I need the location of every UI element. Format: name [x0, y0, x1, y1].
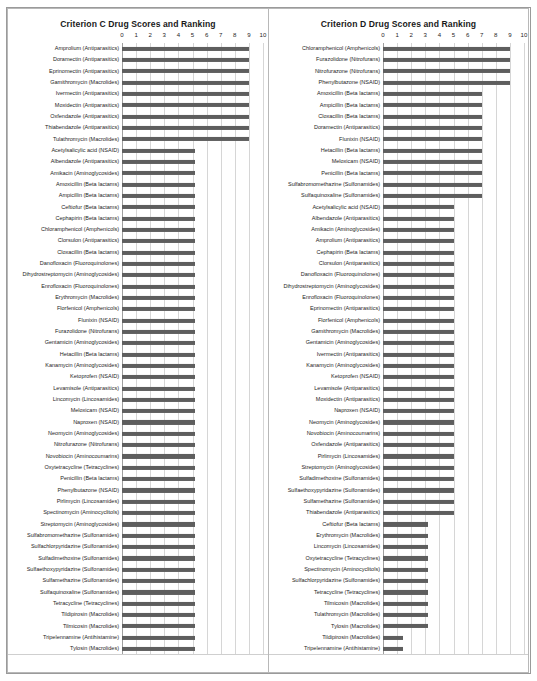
bar-category-label: Tetracycline (Tetracyclines)	[8, 601, 122, 607]
bar-track	[122, 485, 263, 496]
bar-row: Doramectin (Antiparasitics)	[8, 54, 268, 65]
bar-category-label: Ivermectin (Antiparasitics)	[269, 352, 383, 358]
bar-track	[122, 304, 263, 315]
plot-baseline-criterion-d	[269, 654, 528, 655]
x-axis-tick-label: 1	[134, 31, 137, 38]
x-axis-tick-label: 10	[260, 31, 267, 38]
bar-fill	[122, 375, 195, 379]
bar-fill	[122, 488, 195, 492]
bar-fill	[383, 534, 428, 538]
bar-track	[122, 111, 263, 122]
bar-category-label: Eprinomectin (Antiparasitics)	[269, 306, 383, 312]
bar-track	[122, 213, 263, 224]
charts-container: Criterion C Drug Scores and Ranking 0123…	[7, 8, 530, 673]
bar-fill	[383, 239, 454, 243]
bar-category-label: Sulfabromomethazine (Sulfonamides)	[269, 182, 383, 188]
bar-row: Amoxicillin (Beta lactams)	[269, 88, 528, 99]
bar-row: Tilmicosin (Macrolides)	[269, 598, 528, 609]
bar-track	[383, 485, 524, 496]
x-axis-tick-label: 5	[191, 31, 194, 38]
bar-category-label: Chloramphenicol (Amphenicols)	[269, 46, 383, 52]
bar-fill	[122, 251, 195, 255]
x-axis-tick-label: 5	[452, 31, 455, 38]
bar-fill	[122, 636, 195, 640]
bar-category-label: Cephapirin (Beta lactams)	[269, 250, 383, 256]
bar-track	[383, 66, 524, 77]
bar-category-label: Ampicillin (Beta lactams)	[269, 103, 383, 109]
bar-fill	[383, 126, 482, 130]
bar-category-label: Kanamycin (Aminoglycosides)	[269, 363, 383, 369]
bar-category-label: Tildipirosin (Macrolides)	[8, 612, 122, 618]
bar-track	[383, 372, 524, 383]
bar-category-label: Cloxacillin (Beta lactams)	[269, 114, 383, 120]
bar-track	[383, 315, 524, 326]
bar-track	[383, 145, 524, 156]
bar-category-label: Albendazole (Antiparasitics)	[269, 216, 383, 222]
bar-row: Spectinomycin (Aminocyclitols)	[269, 564, 528, 575]
bar-category-label: Nitrofurazone (Nitrofurans)	[8, 442, 122, 448]
bar-fill	[122, 432, 195, 436]
bar-row: Sulfabromomethazine (Sulfonamides)	[269, 179, 528, 190]
bar-fill	[383, 81, 510, 85]
bar-category-label: Gamithromycin (Macrolides)	[269, 329, 383, 335]
bar-fill	[122, 273, 195, 277]
bar-category-label: Tulathromycin (Macrolides)	[269, 612, 383, 618]
bar-track	[383, 338, 524, 349]
bar-row: Danofloxacin (Fluoroquinolones)	[8, 258, 268, 269]
bar-fill	[383, 409, 454, 413]
bar-category-label: Streptomycin (Aminoglycosides)	[269, 465, 383, 471]
bar-row: Streptomycin (Aminoglycosides)	[269, 462, 528, 473]
bar-track	[122, 258, 263, 269]
bar-track	[122, 88, 263, 99]
bar-row: Tetracycline (Tetracyclines)	[269, 587, 528, 598]
bar-category-label: Tulathromycin (Macrolides)	[8, 137, 122, 143]
bar-row: Dihydrostreptomycin (Aminoglycosides)	[8, 270, 268, 281]
x-axis-tick-label: 0	[381, 31, 384, 38]
bar-track	[122, 417, 263, 428]
bar-category-label: Doramectin (Antiparasitics)	[269, 125, 383, 131]
bar-track	[383, 270, 524, 281]
bar-row: Cloxacillin (Beta lactams)	[269, 111, 528, 122]
bar-category-label: Florfenicol (Amphenicols)	[8, 306, 122, 312]
bar-track	[383, 190, 524, 201]
bar-category-label: Sulfaquinoxaline (Sulfonamides)	[269, 193, 383, 199]
bar-fill	[383, 500, 454, 504]
bar-row: Thiabendazole (Antiparasitics)	[269, 507, 528, 518]
bar-row: Furazolidone (Nitrofurans)	[8, 326, 268, 337]
bar-category-label: Pirlimycin (Lincosamides)	[8, 499, 122, 505]
bar-category-label: Tylosin (Macrolides)	[269, 624, 383, 630]
bar-fill	[383, 443, 454, 447]
bar-category-label: Sulfachlorpyridazine (Sulfonamides)	[269, 578, 383, 584]
bar-fill	[122, 296, 195, 300]
bar-fill	[122, 205, 195, 209]
bar-row: Sulfachlorpyridazine (Sulfonamides)	[269, 575, 528, 586]
bar-category-label: Hetacillin (Beta lactams)	[269, 148, 383, 154]
bar-row: Sulfaquinoxaline (Sulfonamides)	[8, 587, 268, 598]
bar-category-label: Sulfaquinoxaline (Sulfonamides)	[8, 590, 122, 596]
bar-track	[122, 587, 263, 598]
bar-fill	[122, 454, 195, 458]
bar-row: Dihydrostreptomycin (Aminoglycosides)	[269, 281, 528, 292]
bar-track	[383, 258, 524, 269]
plot-baseline-criterion-c	[8, 654, 268, 655]
x-axis-tick-label: 8	[494, 31, 497, 38]
bar-track	[383, 224, 524, 235]
bar-row: Levamisole (Antiparasitics)	[8, 383, 268, 394]
bar-fill	[383, 92, 482, 96]
bar-row: Ivermectin (Antiparasitics)	[269, 349, 528, 360]
bar-fill	[122, 522, 195, 526]
bar-row: Neomycin (Aminoglycosides)	[8, 428, 268, 439]
bar-category-label: Sulfamethazine (Sulfonamides)	[8, 578, 122, 584]
bar-fill	[122, 386, 195, 390]
bar-track	[122, 315, 263, 326]
bar-track	[122, 145, 263, 156]
bar-track	[122, 462, 263, 473]
bar-fill	[122, 647, 195, 651]
bar-row: Sulfamethazine (Sulfonamides)	[8, 575, 268, 586]
bar-fill	[383, 47, 510, 51]
bar-category-label: Amprolium (Antiparasitics)	[8, 46, 122, 52]
bar-track	[383, 507, 524, 518]
bar-track	[122, 100, 263, 111]
bar-category-label: Oxytetracycline (Tetracyclines)	[269, 556, 383, 562]
x-axis-tick-label: 4	[177, 31, 180, 38]
